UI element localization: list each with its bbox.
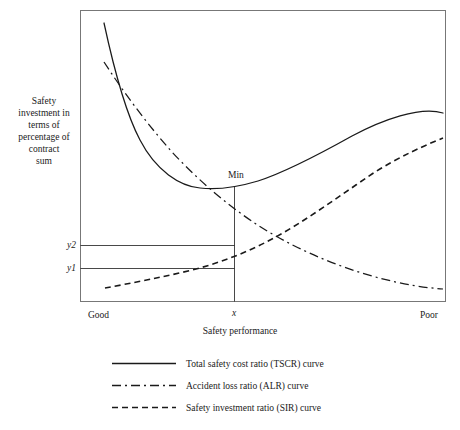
y-axis-label-line-6: sum [36, 156, 52, 166]
series-tscr-curve [104, 23, 443, 189]
legend-item-alr: Accident loss ratio (ALR) curve [112, 381, 308, 392]
min-annotation-label: Min [228, 170, 244, 180]
legend-item-tscr: Total safety cost ratio (TSCR) curve [112, 359, 324, 370]
y-axis-label-line-1: Safety [32, 96, 57, 106]
x-tick-label-x: x [231, 308, 237, 318]
plot-frame [81, 11, 446, 302]
y-axis-label-line-3: terms of [28, 120, 60, 130]
y-axis-label-line-4: percentage of [18, 132, 70, 142]
y-tick-label-y2: y2 [66, 240, 76, 250]
reference-lines [81, 186, 235, 302]
y-axis-label-line-5: contract [29, 144, 60, 154]
series-sir-curve [105, 138, 443, 288]
x-axis-title: Safety performance [203, 326, 278, 336]
x-tick-label-good: Good [88, 310, 109, 320]
y-axis-label-line-2: investment in [18, 108, 70, 118]
y-tick-label-y1: y1 [66, 263, 76, 273]
legend-item-sir: Safety investment ratio (SIR) curve [112, 403, 321, 414]
chart-page: Safety investment in terms of percentage… [0, 0, 460, 430]
y-axis-label: Safety investment in terms of percentage… [18, 96, 70, 166]
chart-legend: Total safety cost ratio (TSCR) curve Acc… [112, 359, 324, 414]
legend-label-tscr: Total safety cost ratio (TSCR) curve [186, 359, 324, 370]
legend-label-alr: Accident loss ratio (ALR) curve [186, 381, 308, 392]
legend-label-sir: Safety investment ratio (SIR) curve [186, 403, 321, 414]
safety-cost-chart: Safety investment in terms of percentage… [0, 0, 460, 430]
x-tick-label-poor: Poor [420, 310, 439, 320]
